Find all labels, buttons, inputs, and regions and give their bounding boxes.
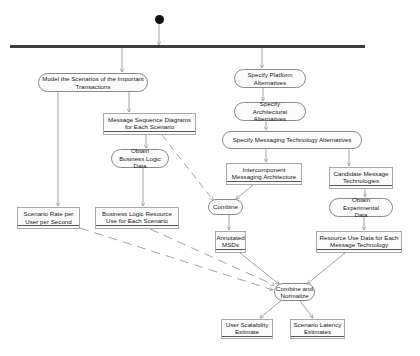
node-label: Annotated MSDs [216, 234, 245, 250]
object-scenario-latency-estimates[interactable]: Scenario Latency Estimates [290, 319, 345, 339]
edge-normalize-latency [300, 301, 313, 318]
node-label: Intercomponent Messaging Architecture [227, 166, 301, 182]
object-scenario-rate[interactable]: Scenario Rate per User per Second [17, 207, 80, 229]
node-label: Obtain Business Logic Data [112, 147, 168, 169]
object-annotated-msds[interactable]: Annotated MSDs [215, 231, 246, 253]
node-label: Resource Use Data for Each Message Techn… [317, 234, 401, 250]
edge-msd-combine [162, 135, 213, 200]
node-label: Business Logic Resource Use for Each Sce… [96, 210, 178, 226]
initial-node [155, 15, 164, 24]
node-label: Specify Architectural Alternatives [235, 100, 305, 122]
fork-bar [10, 45, 365, 48]
activity-specify-architectural[interactable]: Specify Architectural Alternatives [234, 102, 306, 121]
node-label: Scenario Rate per User per Second [18, 210, 79, 226]
object-intercomponent-architecture[interactable]: Intercomponent Messaging Architecture [226, 163, 302, 185]
node-label: Combine [213, 203, 238, 210]
activity-combine-and-normalize[interactable]: Combine and Normalize [274, 283, 315, 301]
object-user-scalability-estimate[interactable]: User Scalability Estimate [221, 319, 273, 339]
node-label: Model the Scenarios of the Important Tra… [39, 75, 147, 90]
node-label: Specify Platform Alternatives [235, 71, 305, 86]
edge-intercomponent-combine [236, 185, 253, 199]
edge-normalize-scalability [260, 299, 283, 318]
node-label: Specify Messaging Technology Alternative… [233, 136, 352, 143]
object-message-sequence-diagrams[interactable]: Message Sequence Diagrams for Each Scena… [103, 113, 196, 135]
activity-model-scenarios[interactable]: Model the Scenarios of the Important Tra… [38, 73, 148, 92]
node-label: Combine and Normalize [275, 285, 314, 300]
node-label: User Scalability Estimate [222, 321, 272, 337]
activity-obtain-experimental-data[interactable]: Obtain Experimental Data [329, 198, 393, 217]
edge-resource-normalize [150, 229, 274, 285]
node-label: Obtain Experimental Data [330, 196, 392, 218]
activity-specify-platform[interactable]: Specify Platform Alternatives [234, 69, 306, 88]
node-label: Scenario Latency Estimates [291, 321, 344, 337]
object-resource-use-per-technology[interactable]: Resource Use Data for Each Message Techn… [316, 231, 402, 253]
object-candidate-technologies[interactable]: Candidate Message Technologies [329, 167, 393, 189]
activity-specify-messaging[interactable]: Specify Messaging Technology Alternative… [222, 131, 362, 149]
activity-obtain-business-data[interactable]: Obtain Business Logic Data [111, 149, 169, 168]
edge-annotated-normalize [240, 253, 279, 284]
activity-combine[interactable]: Combine [208, 199, 243, 215]
node-label: Message Sequence Diagrams for Each Scena… [104, 116, 195, 132]
edge-resourcetech-normalize [307, 253, 345, 284]
activity-diagram: Model the Scenarios of the Important Tra… [0, 0, 420, 356]
node-label: Candidate Message Technologies [330, 170, 392, 186]
object-business-logic-resource-use[interactable]: Business Logic Resource Use for Each Sce… [95, 207, 179, 229]
